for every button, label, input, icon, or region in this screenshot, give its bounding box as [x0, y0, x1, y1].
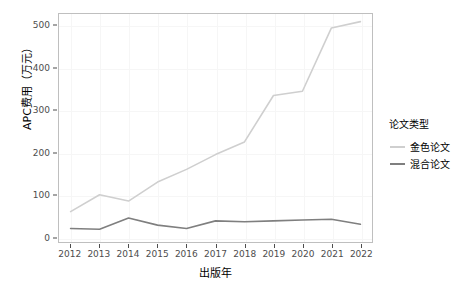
x-axis-tick-mark: [99, 244, 100, 248]
y-axis-tick-label: 200: [33, 148, 50, 157]
x-axis-tick-label: 2013: [87, 250, 110, 259]
legend-title: 论文类型: [389, 116, 467, 131]
y-axis-tick-label: 500: [33, 20, 50, 29]
x-axis-tick-mark: [332, 244, 333, 248]
x-axis-tick-label: 2022: [350, 250, 373, 259]
series-layer: [59, 14, 372, 242]
x-axis-tick-mark: [361, 244, 362, 248]
y-axis-tick-label: 100: [33, 191, 50, 200]
legend-item-label: 金色论文: [410, 139, 450, 154]
x-axis-tick-mark: [128, 244, 129, 248]
x-axis-tick-mark: [70, 244, 71, 248]
legend-item[interactable]: 金色论文: [389, 138, 467, 155]
legend-item-label: 混合论文: [410, 156, 450, 171]
plot-panel: [58, 13, 373, 243]
x-axis-title: 出版年: [58, 264, 373, 280]
y-axis-tick-mark: [53, 67, 57, 68]
x-axis-tick-mark: [245, 244, 246, 248]
y-axis-tick-label: 300: [33, 106, 50, 115]
y-axis-tick-mark: [53, 24, 57, 25]
series-line: [71, 218, 361, 229]
x-axis-tick-mark: [216, 244, 217, 248]
x-axis-tick-label: 2017: [204, 250, 227, 259]
legend-items: 金色论文混合论文: [389, 138, 467, 172]
legend: 论文类型 金色论文混合论文: [389, 116, 467, 172]
x-axis-tick-mark: [186, 244, 187, 248]
x-axis-tick-label: 2018: [233, 250, 256, 259]
x-axis-tick-label: 2019: [262, 250, 285, 259]
y-axis-tick-mark: [53, 152, 57, 153]
x-axis-tick-label: 2014: [117, 250, 140, 259]
legend-item[interactable]: 混合论文: [389, 155, 467, 172]
x-axis-tick-label: 2020: [292, 250, 315, 259]
x-axis-tick-mark: [303, 244, 304, 248]
x-axis-tick-mark: [274, 244, 275, 248]
x-axis-tick-label: 2021: [321, 250, 344, 259]
chart-root: 0100200300400500 APC费用（万元） 出版年 论文类型 金色论文…: [0, 0, 467, 288]
y-axis-tick-mark: [53, 110, 57, 111]
line-series-svg: [59, 14, 372, 242]
series-line: [71, 22, 361, 212]
y-axis-tick-mark: [53, 195, 57, 196]
y-axis-tick-mark: [53, 237, 57, 238]
y-axis-title: APC费用（万元）: [18, 16, 34, 156]
legend-line-icon: [389, 138, 406, 155]
legend-line-icon: [389, 155, 406, 172]
y-axis-tick-label: 400: [33, 63, 50, 72]
x-axis-tick-label: 2015: [146, 250, 169, 259]
x-axis-tick-label: 2016: [175, 250, 198, 259]
y-axis-tick-label: 0: [44, 233, 50, 242]
x-axis-tick-label: 2012: [58, 250, 81, 259]
x-axis-tick-mark: [157, 244, 158, 248]
